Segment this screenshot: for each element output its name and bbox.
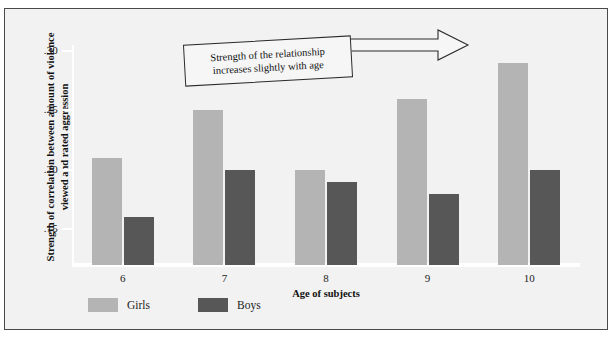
x-axis-tick-label: 10 [504,272,554,284]
legend: GirlsBoys [88,298,261,312]
x-axis-line [72,265,580,267]
bar-boys-age-7 [225,170,255,265]
bar-girls-age-9 [397,99,427,265]
legend-entry-boys: Boys [198,298,261,312]
chart-figure: Strength of correlation between amount o… [0,0,615,339]
y-axis-tick-label: .25 [28,103,58,115]
bar-girls-age-6 [92,158,122,265]
bar-boys-age-10 [530,170,560,265]
bar-boys-age-6 [124,217,154,265]
legend-label-boys: Boys [237,299,261,311]
y-axis-tick [62,50,72,52]
bar-boys-age-9 [429,194,459,265]
y-axis-tick-label: .30 [28,44,58,56]
bar-girls-age-10 [498,63,528,265]
legend-swatch-boys [198,298,228,312]
y-axis-tick [62,169,72,171]
y-axis-tick-label: .20 [28,163,58,175]
y-axis-tick-label: .15 [28,222,58,234]
x-axis-tick-label: 9 [403,272,453,284]
x-axis-tick-label: 8 [301,272,351,284]
annotation-text: Strength of the relationship increases s… [205,45,331,78]
y-axis-tick [62,228,72,230]
x-axis-tick-label: 7 [199,272,249,284]
x-axis-tick-label: 6 [98,272,148,284]
bar-boys-age-8 [327,182,357,265]
legend-label-girls: Girls [127,299,150,311]
y-axis-tick [62,109,72,111]
legend-entry-girls: Girls [88,298,150,312]
legend-swatch-girls [88,298,118,312]
y-axis-title-line-2: viewed and rated aggression [58,27,72,267]
bar-girls-age-7 [193,110,223,265]
bar-girls-age-8 [295,170,325,265]
